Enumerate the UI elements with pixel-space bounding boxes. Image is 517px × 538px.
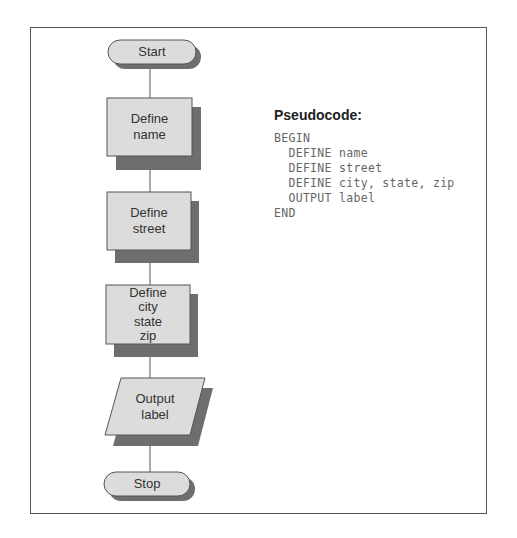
- stop-label: Stop: [104, 472, 190, 496]
- define-name-label: Define name: [107, 98, 192, 156]
- start-label: Start: [108, 40, 196, 64]
- pseudocode-line: DEFINE name: [274, 146, 368, 160]
- define-street-label: Define street: [107, 192, 191, 250]
- flowchart: [0, 0, 517, 538]
- pseudocode-line: DEFINE city, state, zip: [274, 176, 455, 190]
- pseudocode-line: BEGIN: [274, 131, 310, 145]
- pseudocode-line: END: [274, 206, 296, 220]
- define-city-label: Define city state zip: [106, 285, 190, 344]
- pseudocode-line: DEFINE street: [274, 161, 382, 175]
- output-label-label: Output label: [112, 378, 198, 435]
- pseudocode-line: OUTPUT label: [274, 191, 375, 205]
- pseudocode-title: Pseudocode:: [274, 107, 362, 123]
- pseudocode-block: BEGIN DEFINE name DEFINE street DEFINE c…: [274, 131, 455, 221]
